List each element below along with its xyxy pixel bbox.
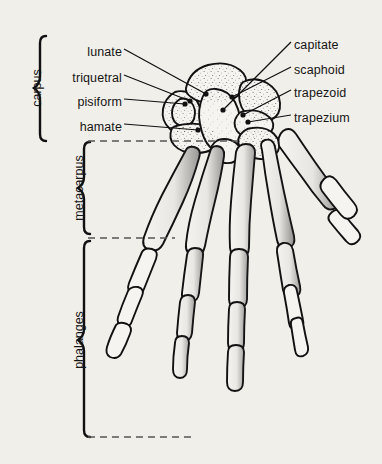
label-scaphoid: scaphoid: [294, 63, 345, 77]
dot-scaphoid: [229, 94, 234, 99]
label-capitate: capitate: [294, 38, 339, 52]
region-label-carpus: carpus: [30, 69, 44, 107]
label-lunate: lunate: [87, 45, 122, 59]
label-hamate: hamate: [80, 120, 122, 134]
distal-phalanx-5: [106, 323, 131, 358]
dot-trapezium: [245, 119, 250, 124]
middle-phalanges: [118, 285, 304, 351]
dot-capitate: [220, 107, 225, 112]
middle-phalanx-5: [118, 287, 143, 327]
leader-lunate: [124, 49, 206, 94]
proximal-phalanges: [128, 243, 300, 308]
label-pisiform: pisiform: [77, 95, 122, 109]
dot-lunate: [203, 91, 208, 96]
proximal-phalanx-1: [320, 176, 357, 219]
proximal-phalanx-shading: [182, 243, 301, 308]
region-label-metacarpus: metacarpus: [72, 155, 86, 220]
leader-triquetral: [124, 75, 190, 101]
label-trapezoid: trapezoid: [294, 86, 346, 100]
distal-phalanx-2: [291, 318, 308, 357]
dot-trapezoid: [240, 112, 245, 117]
dot-hamate: [195, 127, 200, 132]
dot-pisiform: [182, 101, 187, 106]
dot-triquetral: [187, 98, 192, 103]
label-trapezium: trapezium: [294, 111, 350, 125]
region-label-phalanges: phalanges: [72, 311, 86, 369]
label-triquetral: triquetral: [72, 71, 122, 85]
